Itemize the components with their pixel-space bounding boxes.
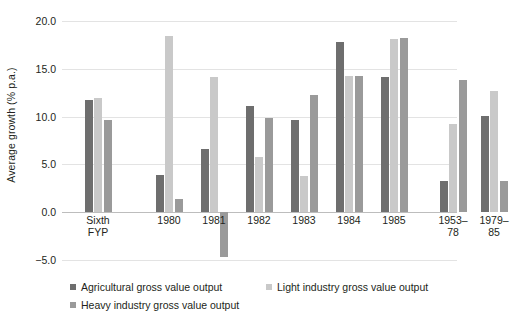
y-axis-title-text: Average growth (% p.a.) [5, 67, 17, 182]
bar [381, 77, 389, 212]
y-tick-label: 10.0 [36, 111, 56, 123]
x-axis-label: 1982 [236, 215, 282, 227]
bar [500, 181, 508, 213]
bar [355, 76, 363, 212]
bar [255, 157, 263, 212]
bar [481, 116, 489, 213]
bar [246, 106, 254, 212]
bar [210, 77, 218, 212]
bar [85, 100, 93, 212]
y-tick-label: 15.0 [36, 63, 56, 75]
y-tick-label: 0.0 [41, 206, 56, 218]
bar [310, 95, 318, 213]
bar [459, 80, 467, 212]
bar [291, 120, 299, 212]
bar [104, 120, 112, 212]
x-axis-category-labels: Sixth FYP1980198119821983198419851953– 7… [62, 215, 457, 261]
x-axis-label: 1953– 78 [430, 215, 476, 238]
bar [300, 176, 308, 212]
bar [156, 175, 164, 212]
legend-item[interactable]: Agricultural gross value output [70, 281, 222, 293]
y-tick-label: 20.0 [36, 15, 56, 27]
bar [336, 42, 344, 212]
x-axis-label: 1981 [191, 215, 237, 227]
y-axis-title: Average growth (% p.a.) [0, 0, 22, 250]
legend-item[interactable]: Heavy industry gross value output [70, 299, 239, 311]
x-axis-label: 1984 [326, 215, 372, 227]
legend-swatch-icon [266, 284, 272, 290]
x-axis-label: 1985 [371, 215, 417, 227]
y-tick-label: −5.0 [35, 254, 56, 266]
legend-label: Light industry gross value output [277, 281, 428, 293]
bar [345, 76, 353, 212]
legend-label: Heavy industry gross value output [81, 299, 239, 311]
bar [201, 149, 209, 212]
legend-swatch-icon [70, 284, 76, 290]
chart-legend: Agricultural gross value outputLight ind… [70, 281, 455, 317]
bar [400, 38, 408, 212]
x-axis-label: 1980 [146, 215, 192, 227]
bar [175, 199, 183, 212]
legend-label: Agricultural gross value output [81, 281, 222, 293]
y-tick-label: 5.0 [41, 158, 56, 170]
x-axis-label: 1983 [281, 215, 327, 227]
legend-item[interactable]: Light industry gross value output [266, 281, 428, 293]
legend-swatch-icon [70, 302, 76, 308]
bar [449, 124, 457, 212]
bar [265, 118, 273, 213]
bar [94, 98, 102, 212]
bar [490, 91, 498, 212]
bar [165, 36, 173, 212]
x-axis-label: 1979– 85 [471, 215, 514, 238]
x-axis-label: Sixth FYP [75, 215, 121, 238]
bar [390, 39, 398, 212]
bar [440, 181, 448, 213]
